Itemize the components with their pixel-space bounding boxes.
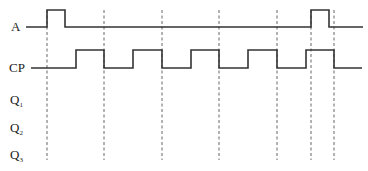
signal-labels: ACPQ1Q2Q3 xyxy=(9,19,25,164)
signal-label-cp: CP xyxy=(9,60,25,75)
signal-label-a: A xyxy=(11,19,21,34)
timing-diagram: ACPQ1Q2Q3 xyxy=(0,0,368,171)
waveform-a xyxy=(26,10,363,27)
timing-diagram-canvas: ACPQ1Q2Q3 xyxy=(0,0,368,171)
signal-label-q3: Q3 xyxy=(10,147,23,164)
signal-waveforms xyxy=(26,10,363,68)
clock-edge-guides xyxy=(47,10,334,160)
waveform-cp xyxy=(31,50,362,68)
signal-label-q1: Q1 xyxy=(10,92,23,109)
signal-label-q2: Q2 xyxy=(10,120,23,137)
